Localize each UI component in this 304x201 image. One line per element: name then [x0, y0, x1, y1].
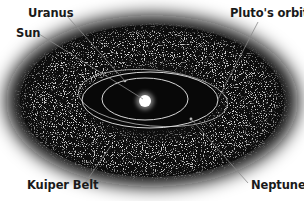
pluto-orbit-label: Pluto's orbit: [230, 8, 304, 20]
sun: [136, 92, 154, 110]
neptune-label: Neptune: [251, 180, 304, 192]
uranus-label: Uranus: [28, 8, 73, 20]
kuiper-belt-diagram: [0, 0, 304, 201]
kuiper-belt-label: Kuiper Belt: [27, 180, 98, 192]
sun-label: Sun: [16, 28, 40, 40]
